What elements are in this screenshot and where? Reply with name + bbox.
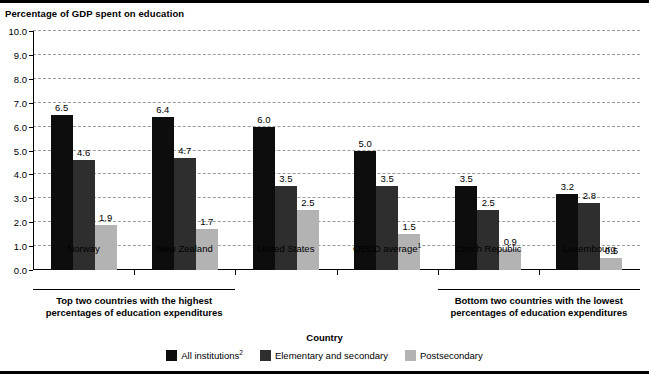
y-axis-tick: [29, 31, 33, 32]
x-axis-label: United States: [235, 243, 336, 254]
x-axis-title: Country: [0, 332, 649, 343]
bar-value-label: 4.6: [77, 147, 90, 158]
y-axis-tick-label: 4.0: [14, 169, 27, 180]
x-axis-separator: [235, 270, 236, 275]
chart-figure: Percentage of GDP spent on education 10.…: [0, 0, 649, 374]
y-axis-tick-label: 7.0: [14, 97, 27, 108]
bar[interactable]: 3.2: [556, 194, 578, 270]
bar-value-label: 1.5: [402, 221, 415, 232]
legend-swatch: [166, 350, 177, 361]
gridline: [33, 126, 640, 127]
y-axis-tick-label: 3.0: [14, 193, 27, 204]
bar-value-label: 6.5: [55, 102, 68, 113]
gridline: [33, 221, 640, 222]
bar-value-label: 3.5: [460, 173, 473, 184]
bar-value-label: 2.8: [583, 190, 596, 201]
y-axis-tick: [29, 270, 33, 271]
bar-value-label: 6.0: [257, 114, 270, 125]
bar-group: 5.03.51.5: [354, 31, 420, 270]
annotation-rule: [438, 289, 640, 290]
bar-group: 6.03.52.5: [253, 31, 319, 270]
y-axis-tick-label: 2.0: [14, 217, 27, 228]
bar-value-label: 2.5: [482, 197, 495, 208]
x-axis-separator: [337, 270, 338, 275]
y-axis-tick: [29, 222, 33, 223]
bar-value-label: 1.9: [99, 212, 112, 223]
gridline: [33, 173, 640, 174]
legend-item[interactable]: Postsecondary: [405, 350, 483, 361]
y-axis-tick-label: 6.0: [14, 121, 27, 132]
bar[interactable]: 2.8: [578, 203, 600, 270]
gridline: [33, 197, 640, 198]
y-axis-tick-label: 9.0: [14, 49, 27, 60]
footnote-marker: 2: [239, 349, 243, 356]
footnote-marker: 1: [417, 242, 421, 249]
bar[interactable]: 3.5: [275, 186, 297, 270]
x-axis-label: OECD average1: [337, 243, 438, 254]
bar[interactable]: 2.5: [477, 210, 499, 270]
y-axis-tick: [29, 103, 33, 104]
x-axis-separator: [438, 270, 439, 275]
bar-group: 3.22.80.5: [556, 31, 622, 270]
gridline: [33, 30, 640, 31]
legend: All institutions2Elementary and secondar…: [0, 350, 649, 361]
bar-value-label: 4.7: [178, 145, 191, 156]
legend-item[interactable]: Elementary and secondary: [260, 350, 388, 361]
group-annotation: Bottom two countries with the lowestperc…: [438, 289, 640, 319]
group-annotation: Top two countries with the highestpercen…: [33, 289, 235, 319]
x-axis-separator: [539, 270, 540, 275]
annotation-text: Top two countries with the highestpercen…: [33, 295, 235, 319]
y-axis-tick: [29, 127, 33, 128]
y-axis-tick: [29, 151, 33, 152]
y-axis-tick-label: 1.0: [14, 241, 27, 252]
y-axis-tick-label: 8.0: [14, 73, 27, 84]
y-axis-tick: [29, 79, 33, 80]
gridline: [33, 150, 640, 151]
y-axis-tick-label: 10.0: [9, 26, 28, 37]
legend-swatch: [405, 350, 416, 361]
y-axis-tick: [29, 198, 33, 199]
y-axis-tick: [29, 55, 33, 56]
y-axis-tick-label: 5.0: [14, 145, 27, 156]
legend-label: All institutions2: [181, 350, 243, 361]
y-axis-tick: [29, 174, 33, 175]
y-axis-line: [33, 31, 34, 270]
x-axis-label: Norway: [33, 243, 134, 254]
x-axis-label: Czech Republic: [438, 243, 539, 254]
plot-area: 10.09.08.07.06.05.04.03.02.01.00.0 6.54.…: [33, 31, 640, 270]
bar[interactable]: 3.5: [455, 186, 477, 270]
bar-group: 6.54.61.9: [51, 31, 117, 270]
bar[interactable]: 2.5: [297, 210, 319, 270]
gridline: [33, 78, 640, 79]
legend-item[interactable]: All institutions2: [166, 350, 243, 361]
top-rule: [0, 0, 649, 3]
bar-value-label: 2.5: [301, 197, 314, 208]
x-axis-separator: [134, 270, 135, 275]
bar-value-label: 5.0: [358, 138, 371, 149]
x-axis-label: New Zealand: [134, 243, 235, 254]
bar-value-label: 6.4: [156, 104, 169, 115]
legend-label: Postsecondary: [420, 350, 483, 361]
bar-value-label: 3.2: [561, 181, 574, 192]
y-axis-title: Percentage of GDP spent on education: [5, 8, 184, 19]
x-axis-label: Luxembourg: [539, 243, 640, 254]
legend-label: Elementary and secondary: [275, 350, 388, 361]
gridline: [33, 54, 640, 55]
bar-value-label: 3.5: [380, 173, 393, 184]
legend-swatch: [260, 350, 271, 361]
bar-group: 3.52.50.9: [455, 31, 521, 270]
y-axis-tick-label: 0.0: [14, 265, 27, 276]
bar[interactable]: 0.5: [600, 258, 622, 270]
annotation-text: Bottom two countries with the lowestperc…: [438, 295, 640, 319]
bar[interactable]: 3.5: [376, 186, 398, 270]
gridline: [33, 102, 640, 103]
annotation-rule: [33, 289, 235, 290]
bar-value-label: 3.5: [279, 173, 292, 184]
bar-value-label: 1.7: [200, 216, 213, 227]
bar-group: 6.44.71.7: [152, 31, 218, 270]
